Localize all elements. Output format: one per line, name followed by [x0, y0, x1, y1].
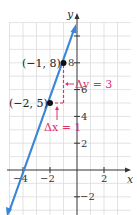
y-tick-4: 4	[81, 111, 87, 122]
delta-x-label: Δx = 1	[44, 121, 81, 134]
point-neg1-8	[61, 60, 67, 66]
line-arrow-up-icon	[71, 24, 77, 34]
y-tick-8: 8	[68, 57, 74, 68]
point-neg2-5	[47, 100, 53, 106]
point-label-neg2-5: (−2, 5)	[9, 97, 48, 110]
x-axis-arrow-icon	[125, 168, 131, 173]
y-axis-arrow-icon	[75, 13, 80, 19]
point-label-neg1-8: (−1, 8)	[22, 57, 61, 70]
x-axis-label: x	[127, 173, 134, 186]
grid	[9, 22, 131, 215]
annotation-arrows	[55, 82, 74, 120]
delta-y-label: Δy = 3	[75, 78, 112, 91]
x-tick-2: 2	[101, 173, 107, 184]
y-tick-neg2: −2	[80, 191, 95, 202]
y-axis-label: y	[66, 8, 74, 21]
y-tick-2: 2	[81, 138, 87, 149]
chart-canvas: −4 −2 2 x y 2 4 6 8 −2 Δy = 3 Δx = 1 (−1…	[0, 0, 137, 215]
x-tick-neg2: −2	[40, 173, 55, 184]
